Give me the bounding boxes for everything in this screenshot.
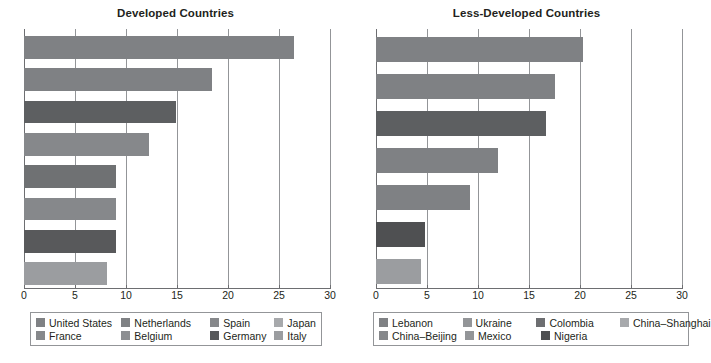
legend-swatch <box>121 331 130 340</box>
bar-fill <box>376 74 555 100</box>
bar-fill <box>24 230 116 253</box>
legend-label: Nigeria <box>554 330 587 342</box>
bar-france <box>24 165 116 188</box>
x-tick-label: 20 <box>574 289 586 301</box>
legend-swatch <box>620 318 629 327</box>
bar-fill <box>376 111 546 137</box>
gridline-30 <box>330 29 331 288</box>
bars-developed <box>24 29 330 288</box>
legend-label: Colombia <box>549 317 593 329</box>
legend-row: China–BeijingMexicoNigeria <box>379 329 684 342</box>
legend-swatch <box>274 331 283 340</box>
x-tick-label: 30 <box>324 289 336 301</box>
legend-label: China–Beijing <box>392 330 457 342</box>
legend-item: Japan <box>274 317 317 329</box>
bars-less-developed <box>376 29 682 288</box>
legend-swatch <box>36 331 45 340</box>
bar-colombia <box>376 111 546 137</box>
legend-swatch <box>210 331 219 340</box>
bar-netherlands <box>24 68 212 91</box>
legend-item: United States <box>36 317 121 329</box>
legend-label: Belgium <box>134 330 172 342</box>
bar-china-shanghai <box>376 148 498 174</box>
bar-fill <box>24 36 294 59</box>
panel-title-less-developed: Less-Developed Countries <box>351 7 702 19</box>
bar-spain <box>24 101 176 124</box>
bar-fill <box>376 222 425 248</box>
legend-item: China–Beijing <box>379 330 465 342</box>
legend-item: France <box>36 330 121 342</box>
legend-label: Japan <box>287 317 316 329</box>
legend-row: United StatesNetherlandsSpainJapan <box>36 316 317 329</box>
bar-united-states <box>24 36 294 59</box>
bar-fill <box>376 259 421 285</box>
panel-developed-countries: Developed Countries 051015202530 United … <box>0 0 351 363</box>
x-tick-label: 10 <box>120 289 132 301</box>
legend-item: Belgium <box>121 330 210 342</box>
legend-label: France <box>49 330 82 342</box>
legend-swatch <box>465 331 474 340</box>
legend-swatch <box>379 331 388 340</box>
legend-label: Mexico <box>478 330 511 342</box>
legend-label: United States <box>49 317 112 329</box>
bar-fill <box>24 101 176 124</box>
bar-japan <box>24 133 149 156</box>
bar-germany <box>24 230 116 253</box>
legend-label: Italy <box>287 330 306 342</box>
legend-item: Ukraine <box>463 317 537 329</box>
legend-label: Netherlands <box>134 317 191 329</box>
x-tick-label: 5 <box>424 289 430 301</box>
x-tick-label: 25 <box>273 289 285 301</box>
x-tick-label: 10 <box>472 289 484 301</box>
bar-fill <box>376 37 583 63</box>
x-tick-label: 30 <box>676 289 688 301</box>
panel-less-developed-countries: Less-Developed Countries 051015202530 Le… <box>351 0 702 363</box>
bar-nigeria <box>376 259 421 285</box>
legend-label: China–Shanghai <box>633 317 711 329</box>
legend-swatch <box>463 318 472 327</box>
bar-fill <box>24 262 107 285</box>
legend-less-developed: LebanonUkraineColombiaChina–Shanghai Chi… <box>373 312 689 346</box>
x-axis-ticks-developed: 051015202530 <box>24 289 330 305</box>
bar-fill <box>376 185 470 211</box>
bar-ukraine <box>376 74 555 100</box>
x-tick-label: 20 <box>222 289 234 301</box>
legend-item: Germany <box>210 330 274 342</box>
legend-item: Lebanon <box>379 317 463 329</box>
bar-belgium <box>24 198 116 221</box>
legend-item: Spain <box>210 317 274 329</box>
x-tick-label: 25 <box>625 289 637 301</box>
bar-lebanon <box>376 37 583 63</box>
bar-fill <box>24 198 116 221</box>
bar-fill <box>24 165 116 188</box>
legend-item: China–Shanghai <box>620 317 684 329</box>
x-tick-label: 0 <box>21 289 27 301</box>
gridline-30 <box>682 29 683 288</box>
panel-title-developed: Developed Countries <box>0 7 351 19</box>
legend-developed: United StatesNetherlandsSpainJapan Franc… <box>30 312 322 346</box>
legend-row: LebanonUkraineColombiaChina–Shanghai <box>379 316 684 329</box>
legend-item: Colombia <box>536 317 620 329</box>
plot-area-less-developed <box>376 29 682 288</box>
legend-label: Spain <box>223 317 250 329</box>
legend-swatch <box>121 318 130 327</box>
legend-swatch <box>379 318 388 327</box>
legend-label: Germany <box>223 330 266 342</box>
bar-italy <box>24 262 107 285</box>
bar-china-beijing <box>376 185 470 211</box>
legend-swatch <box>541 331 550 340</box>
x-tick-label: 5 <box>72 289 78 301</box>
legend-label: Ukraine <box>476 317 512 329</box>
plot-area-developed <box>24 29 330 288</box>
legend-label: Lebanon <box>392 317 433 329</box>
legend-swatch <box>274 318 283 327</box>
bar-fill <box>376 148 498 174</box>
x-axis-ticks-less-developed: 051015202530 <box>376 289 682 305</box>
legend-swatch <box>536 318 545 327</box>
bar-mexico <box>376 222 425 248</box>
bar-fill <box>24 133 149 156</box>
bar-fill <box>24 68 212 91</box>
legend-item: Mexico <box>465 330 541 342</box>
x-tick-label: 15 <box>171 289 183 301</box>
